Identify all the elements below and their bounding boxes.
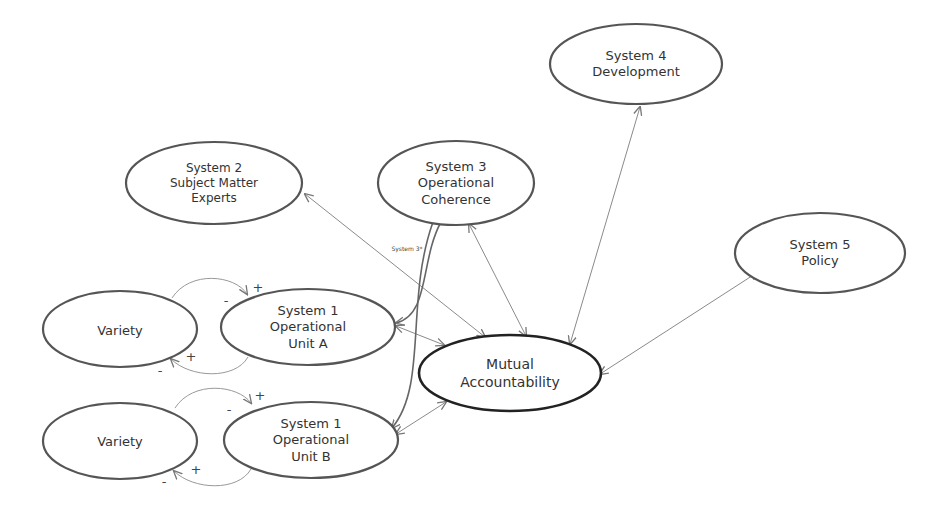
label-line: Coherence [418,191,494,207]
edge-s3-s1a [396,222,441,323]
label-line: System 1 [273,416,349,432]
label-s1a: System 1 Operational Unit A [270,303,346,352]
label-line: Experts [170,191,258,206]
label-line: System 5 [790,237,851,253]
label-line: System 2 [170,161,258,176]
label-line: Accountability [460,373,559,391]
sign-minus: - [158,363,163,378]
edge-s1a-mutual [396,326,444,345]
loop-varA-top [172,278,247,298]
label-line: Variety [97,434,143,450]
label-line: Operational [270,319,346,335]
label-varB: Variety [97,434,143,450]
sign-plus: + [186,349,197,364]
label-line: Operational [273,432,349,448]
sign-plus: + [253,280,264,295]
label-line: Subject Matter [170,176,258,191]
loop-varA-bottom [171,357,248,374]
label-line: Development [592,64,680,80]
label-line: Policy [790,253,851,269]
label-line: Variety [97,323,143,339]
label-mutual: Mutual Accountability [460,356,559,391]
loop-varB-bottom [174,469,251,486]
label-s3: System 3 Operational Coherence [418,159,494,208]
label-line: System 1 [270,303,346,319]
edge-s3-mutual [469,224,526,336]
sign-minus: - [162,474,167,489]
label-line: Unit A [270,335,346,351]
label-line: Mutual [460,356,559,374]
edge-s5-mutual [600,272,758,374]
label-s1b: System 1 Operational Unit B [273,416,349,465]
label-s2: System 2 Subject Matter Experts [170,161,258,206]
sign-plus: + [191,462,202,477]
label-line: Operational [418,175,494,191]
edge-s4-mutual [570,107,640,344]
edge-s3-s1b [392,222,433,428]
label-line: System 3 [418,159,494,175]
loop-varB-top [175,388,251,408]
label-varA: Variety [97,323,143,339]
label-s5: System 5 Policy [790,237,851,270]
sign-minus: - [224,293,229,308]
edge-label-s3star: System 3* [391,245,422,252]
sign-plus: + [255,388,266,403]
label-line: System 4 [592,48,680,64]
sign-minus: - [227,402,232,417]
label-line: Unit B [273,448,349,464]
label-s4: System 4 Development [592,48,680,81]
